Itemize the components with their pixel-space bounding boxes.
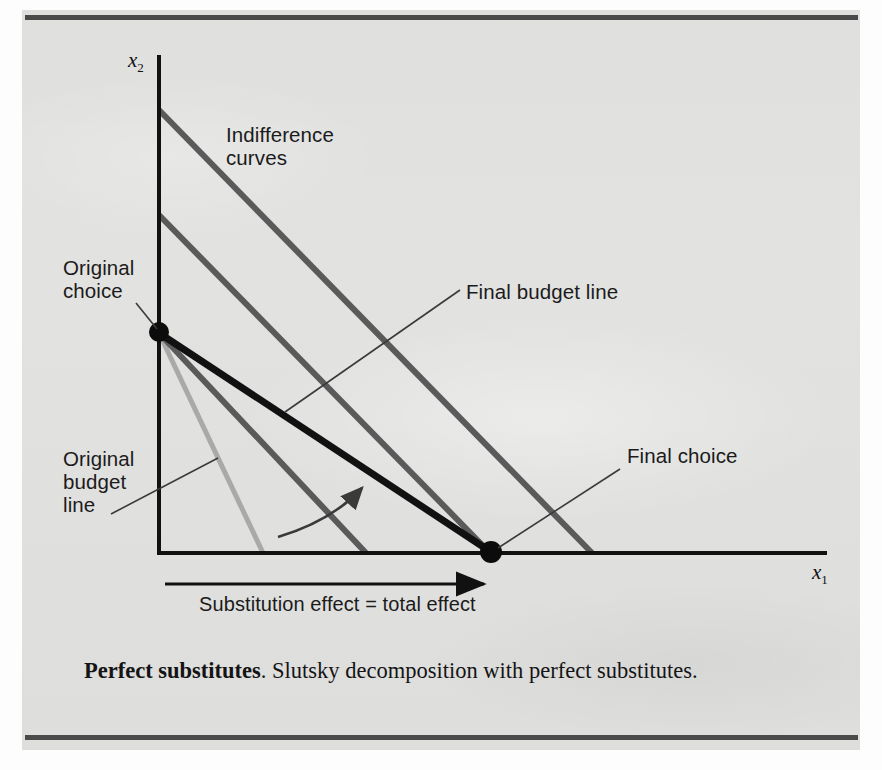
- annotation-substitution-effect: Substitution effect = total effect: [199, 593, 476, 616]
- leader-final-choice: [498, 469, 620, 548]
- leader-original-choice: [136, 303, 157, 329]
- figure-caption: Perfect substitutes. Slutsky decompositi…: [84, 655, 804, 686]
- original-choice-point: [149, 322, 169, 342]
- top-rule: [25, 15, 858, 20]
- pivot-arrow: [278, 488, 362, 537]
- bottom-rule: [25, 735, 858, 740]
- caption-body: . Slutsky decomposition with perfect sub…: [261, 658, 698, 683]
- annotation-original-choice: Original choice: [63, 256, 134, 302]
- figure-container: x2 x1 Indifference curves Original choic…: [0, 0, 882, 770]
- annotation-final-budget-line: Final budget line: [466, 280, 618, 303]
- annotation-original-budget-line: Original budget line: [63, 447, 134, 516]
- y-axis-label: x2: [128, 48, 144, 76]
- annotation-indifference-curves: Indifference curves: [226, 123, 334, 169]
- pivoted-budget-line: [159, 333, 366, 553]
- x-axis-label: x1: [812, 560, 828, 588]
- annotation-final-choice: Final choice: [627, 444, 738, 467]
- caption-lead: Perfect substitutes: [84, 658, 261, 683]
- final-choice-point: [480, 541, 502, 563]
- indifference-curve-upper: [159, 110, 592, 553]
